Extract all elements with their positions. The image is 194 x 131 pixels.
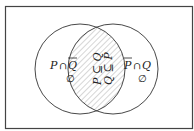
svg-text:∅: ∅ [66, 73, 75, 84]
svg-text:P: P [49, 59, 58, 72]
svg-text:∩: ∩ [133, 60, 141, 71]
svg-text:∩: ∩ [59, 60, 67, 71]
venn-diagram: P ∩ Q ∅ P ∩ Q ∅ P ⊆ Q Q ⊆ P [0, 0, 194, 131]
intersection-label: P ⊆ Q Q ⊆ P [91, 52, 115, 86]
svg-text:P: P [123, 59, 132, 72]
svg-text:Q ⊆ P: Q ⊆ P [102, 52, 115, 85]
svg-text:Q: Q [142, 59, 151, 72]
svg-text:∅: ∅ [138, 73, 147, 84]
svg-text:Q: Q [68, 59, 77, 72]
